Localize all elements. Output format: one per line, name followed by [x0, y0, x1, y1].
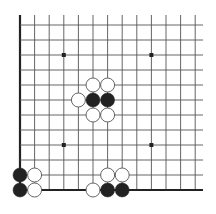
- white-stone[interactable]: [101, 78, 115, 92]
- white-stone[interactable]: [86, 183, 100, 197]
- black-stone[interactable]: [86, 93, 100, 107]
- black-stone[interactable]: [115, 183, 129, 197]
- white-stone[interactable]: [115, 168, 129, 182]
- white-stone[interactable]: [28, 183, 42, 197]
- star-point-icon: [62, 143, 66, 147]
- go-board: [0, 0, 216, 214]
- black-stone[interactable]: [13, 183, 27, 197]
- black-stone[interactable]: [101, 183, 115, 197]
- star-point-icon: [62, 53, 66, 57]
- white-stone[interactable]: [71, 93, 85, 107]
- white-stone[interactable]: [86, 108, 100, 122]
- white-stone[interactable]: [101, 108, 115, 122]
- star-point-icon: [149, 143, 153, 147]
- stones-layer: [13, 78, 129, 197]
- white-stone[interactable]: [28, 168, 42, 182]
- white-stone[interactable]: [101, 168, 115, 182]
- go-board-canvas[interactable]: [0, 0, 216, 214]
- star-point-icon: [149, 53, 153, 57]
- black-stone[interactable]: [101, 93, 115, 107]
- black-stone[interactable]: [13, 168, 27, 182]
- white-stone[interactable]: [86, 78, 100, 92]
